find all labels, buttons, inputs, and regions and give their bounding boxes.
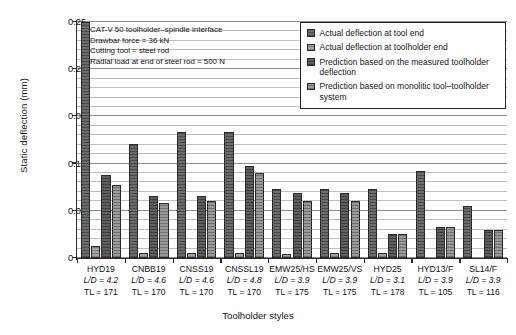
annotation-line: Drawbar force = 36 kN: [90, 36, 225, 47]
category-length-diameter: L/D = 4.2: [77, 275, 125, 286]
chart-annotation-block: CAT-V 50 toolholder–spindle interfaceDra…: [90, 25, 225, 67]
category-tool-length: TL = 170: [125, 287, 173, 298]
chart-legend: Actual deflection at tool end Actual def…: [300, 22, 506, 109]
x-axis-tick-mark: [411, 258, 412, 263]
annotation-line: Cutting tool = steel rod: [90, 46, 225, 57]
category-tool-length: TL = 170: [173, 287, 221, 298]
category-tool-length: TL = 171: [77, 287, 125, 298]
x-axis-tick-mark: [268, 258, 269, 263]
legend-label: Actual deflection at tool end: [320, 28, 424, 38]
x-axis-tick-mark: [125, 258, 126, 263]
category-name: HYD25: [364, 264, 412, 275]
bar: [416, 171, 425, 258]
category-length-diameter: L/D = 3.1: [364, 275, 412, 286]
category-name: CNSSL19: [220, 264, 268, 275]
x-axis-ticks: [76, 258, 508, 263]
legend-item: Actual deflection at tool end: [307, 28, 499, 38]
bar: [320, 189, 329, 258]
y-axis-tick-label: 0.1: [68, 159, 70, 169]
category-name: EMW25/VS: [316, 264, 364, 275]
legend-swatch-icon: [307, 83, 315, 91]
bar: [398, 234, 407, 258]
x-axis-tick-mark: [77, 258, 78, 263]
category-tool-length: TL = 116: [459, 287, 507, 298]
x-axis-tick-mark: [316, 258, 317, 263]
x-axis-tick-mark: [220, 258, 221, 263]
category-length-diameter: L/D = 3.9: [316, 275, 364, 286]
legend-swatch-icon: [307, 58, 315, 66]
bar: [255, 173, 264, 258]
category-length-diameter: L/D = 4.6: [125, 275, 173, 286]
category-tool-length: TL = 178: [364, 287, 412, 298]
bar: [293, 193, 302, 258]
x-axis-category-label: CNSSL19L/D = 4.8TL = 170: [220, 264, 268, 308]
bar: [272, 189, 281, 258]
bar: [101, 175, 110, 258]
category-length-diameter: L/D = 3.9: [268, 275, 316, 286]
category-tool-length: TL = 170: [220, 287, 268, 298]
bar: [207, 201, 216, 258]
x-axis-title: Toolholder styles: [0, 310, 516, 321]
category-tool-length: TL = 105: [411, 287, 459, 298]
y-axis-title: Static deflection (mm): [18, 41, 29, 211]
x-axis-category-label: HYD19L/D = 4.2TL = 171: [77, 264, 125, 308]
category-tool-length: TL = 175: [316, 287, 364, 298]
legend-swatch-icon: [307, 29, 315, 37]
bar: [112, 185, 121, 258]
bar: [351, 201, 360, 258]
category-name: SL14/F: [459, 264, 507, 275]
x-axis-category-label: CNSS19L/D = 4.6TL = 170: [173, 264, 221, 308]
category-tool-length: TL = 175: [268, 287, 316, 298]
legend-swatch-icon: [307, 44, 315, 52]
category-length-diameter: L/D = 3.9: [459, 275, 507, 286]
bar: [91, 246, 100, 258]
bar-group: [220, 22, 268, 258]
bar: [388, 234, 397, 258]
bar: [340, 193, 349, 258]
x-axis-category-label: HYD25L/D = 3.1TL = 178: [364, 264, 412, 308]
legend-label: Prediction based on monolitic tool–toolh…: [320, 81, 499, 101]
x-axis-tick-mark: [507, 258, 508, 263]
legend-label: Prediction based on the measured toolhol…: [320, 57, 499, 77]
bar: [177, 132, 186, 258]
x-axis-category-label: EMW25/VSL/D = 3.9TL = 175: [316, 264, 364, 308]
y-axis-tick-label: 0.25: [68, 17, 70, 27]
bar: [245, 166, 254, 258]
bar: [129, 144, 138, 258]
bar: [303, 201, 312, 258]
bar: [224, 132, 233, 258]
category-length-diameter: L/D = 4.6: [173, 275, 221, 286]
bar: [149, 196, 158, 258]
chart-figure: Static deflection (mm) 00.050.10.050.20.…: [0, 0, 516, 335]
bar: [159, 203, 168, 258]
bar: [436, 227, 445, 258]
x-axis-category-label: CNBB19L/D = 4.6TL = 170: [125, 264, 173, 308]
category-name: HYD19: [77, 264, 125, 275]
x-axis-tick-mark: [173, 258, 174, 263]
bar: [463, 206, 472, 258]
category-length-diameter: L/D = 4.8: [220, 275, 268, 286]
x-axis-tick-mark: [459, 258, 460, 263]
legend-item: Prediction based on monolitic tool–toolh…: [307, 81, 499, 101]
x-axis-category-label: SL14/FL/D = 3.9TL = 116: [459, 264, 507, 308]
x-axis-category-label: EMW25/HSL/D = 3.9TL = 175: [268, 264, 316, 308]
bar: [446, 227, 455, 258]
x-axis-labels: HYD19L/D = 4.2TL = 171CNBB19L/D = 4.6TL …: [77, 264, 507, 308]
category-name: EMW25/HS: [268, 264, 316, 275]
bar: [197, 196, 206, 258]
y-axis-tick-label: 0.05: [68, 206, 70, 216]
x-axis-category-label: HYD13/FL/D = 3.9TL = 105: [411, 264, 459, 308]
bar: [368, 189, 377, 258]
category-name: CNSS19: [173, 264, 221, 275]
x-axis-tick-mark: [364, 258, 365, 263]
category-name: HYD13/F: [411, 264, 459, 275]
annotation-line: Radial load at end of steel rod = 500 N: [90, 57, 225, 68]
category-name: CNBB19: [125, 264, 173, 275]
y-axis-tick-label: 0.05: [68, 111, 70, 121]
legend-item: Prediction based on the measured toolhol…: [307, 57, 499, 77]
bar: [494, 230, 503, 258]
annotation-line: CAT-V 50 toolholder–spindle interface: [90, 25, 225, 36]
legend-label: Actual deflection at toolholder end: [320, 42, 448, 52]
y-axis-tick-label: 0: [68, 253, 70, 263]
category-length-diameter: L/D = 3.9: [411, 275, 459, 286]
